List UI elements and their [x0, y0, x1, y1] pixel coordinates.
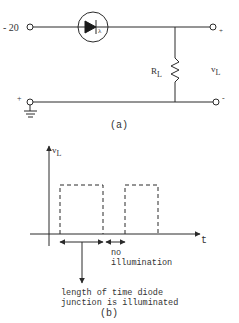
pulse-1	[60, 185, 103, 234]
no-illumination-label-1: no	[111, 248, 121, 258]
diagram-canvas: - 20 λ + + - RL vL (a) vL t no illuminat…	[0, 0, 239, 323]
output-terminal-positive	[210, 24, 216, 30]
y-axis-label: vL	[52, 145, 62, 158]
light-symbol: λ	[98, 27, 102, 35]
ground-terminal	[27, 99, 33, 105]
x-axis-label: t	[201, 235, 207, 246]
pulse-2	[125, 185, 158, 234]
waveform-labels: vL t no illumination length of time diod…	[52, 145, 207, 319]
photodiode-icon	[78, 12, 108, 42]
input-terminal	[27, 24, 33, 30]
minus-right: -	[222, 94, 225, 103]
circuit-a	[24, 12, 219, 117]
plus-left: +	[17, 94, 22, 103]
resistor-label: RL	[151, 66, 162, 79]
no-illumination-label-2: illumination	[111, 258, 172, 268]
input-voltage-label: - 20	[3, 22, 19, 33]
illuminated-label-1: length of time diode	[61, 288, 163, 298]
output-terminal-negative	[213, 99, 219, 105]
plus-right: +	[219, 27, 223, 35]
resistor-icon	[171, 58, 179, 82]
circuit-labels: - 20 λ + + - RL vL (a)	[3, 22, 225, 131]
output-voltage-label: vL	[211, 64, 221, 77]
caption-a: (a)	[110, 120, 128, 131]
ground-icon	[24, 105, 37, 117]
caption-b: (b)	[100, 308, 118, 319]
illuminated-label-2: junction is illuminated	[61, 298, 178, 308]
